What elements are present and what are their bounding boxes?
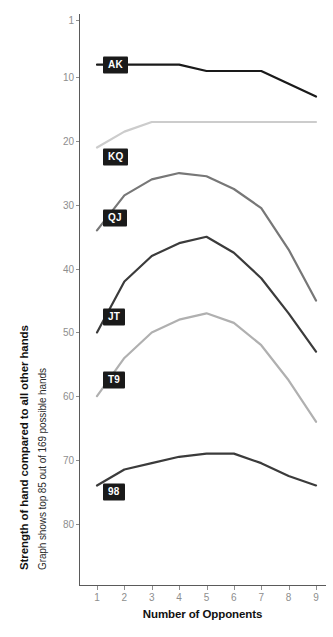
x-tick-mark	[289, 586, 290, 590]
series-label-ak: AK	[103, 56, 128, 73]
series-line-t9	[97, 313, 316, 421]
x-tick-mark	[234, 586, 235, 590]
series-label-kq: KQ	[103, 149, 128, 166]
x-axis-title: Number of Opponents	[79, 608, 326, 620]
y-tick-mark	[76, 524, 79, 525]
y-tick-label: 70	[63, 454, 74, 465]
y-tick-label: 20	[63, 136, 74, 147]
x-tick-label: 1	[94, 592, 100, 603]
series-label-98: 98	[103, 483, 125, 500]
y-tick-mark	[76, 20, 79, 21]
series-label-qj: QJ	[103, 209, 127, 226]
y-tick-mark	[76, 332, 79, 333]
series-label-t9: T9	[103, 372, 125, 389]
series-line-98	[97, 454, 316, 486]
x-tick-mark	[179, 586, 180, 590]
x-tick-mark	[261, 586, 262, 590]
x-tick-label: 4	[176, 592, 182, 603]
y-tick-label: 10	[63, 72, 74, 83]
y-axis-subtitle: Graph shows top 85 out of 169 possible h…	[37, 368, 48, 570]
y-tick-label: 1	[68, 15, 74, 26]
y-tick-label: 80	[63, 518, 74, 529]
x-tick-label: 8	[286, 592, 292, 603]
x-tick-mark	[124, 586, 125, 590]
y-tick-mark	[76, 77, 79, 78]
y-tick-label: 30	[63, 199, 74, 210]
x-tick-label: 5	[204, 592, 210, 603]
series-label-jt: JT	[103, 308, 125, 325]
y-tick-mark	[76, 141, 79, 142]
poker-hand-strength-chart: Strength of hand compared to all other h…	[0, 0, 333, 637]
y-tick-mark	[76, 269, 79, 270]
y-tick-mark	[76, 460, 79, 461]
y-axis-title-group: Strength of hand compared to all other h…	[0, 0, 56, 600]
y-tick-label: 60	[63, 391, 74, 402]
series-line-kq	[97, 122, 316, 148]
x-tick-mark	[97, 586, 98, 590]
series-line-ak	[97, 65, 316, 97]
y-tick-mark	[76, 396, 79, 397]
y-tick-mark	[76, 205, 79, 206]
x-tick-mark	[207, 586, 208, 590]
y-tick-label: 50	[63, 327, 74, 338]
x-tick-label: 7	[258, 592, 264, 603]
y-tick-label: 40	[63, 263, 74, 274]
x-tick-label: 3	[149, 592, 155, 603]
plot-area: 11020304050607080123456789AKKQQJJTT998	[79, 14, 326, 586]
x-tick-mark	[152, 586, 153, 590]
x-tick-mark	[316, 586, 317, 590]
series-line-jt	[97, 237, 316, 352]
x-tick-label: 6	[231, 592, 237, 603]
x-tick-label: 9	[313, 592, 319, 603]
y-axis-title: Strength of hand compared to all other h…	[18, 325, 30, 570]
x-tick-label: 2	[122, 592, 128, 603]
